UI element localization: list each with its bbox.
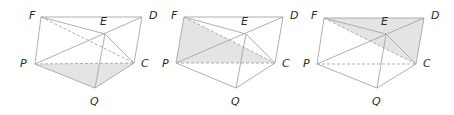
vertex-label-d: D bbox=[149, 9, 157, 22]
vertex-label-q: Q bbox=[231, 95, 240, 108]
polyhedron-figure-3: FDEPCQ bbox=[303, 9, 439, 108]
edge-fp bbox=[35, 17, 41, 64]
edge-pd bbox=[35, 17, 142, 64]
vertex-label-c: C bbox=[423, 57, 431, 70]
edge-ec bbox=[105, 34, 134, 63]
vertex-label-c: C bbox=[282, 57, 290, 70]
vertex-label-e: E bbox=[100, 15, 107, 28]
edge-fp bbox=[317, 18, 324, 64]
edge-fe bbox=[41, 17, 105, 34]
edge-pq bbox=[176, 63, 236, 88]
solid-geometry-diagram: FDEPCQ FDEPCQ FDEPCQ bbox=[0, 0, 454, 115]
vertex-label-d: D bbox=[431, 9, 439, 22]
vertex-label-e: E bbox=[381, 15, 388, 28]
vertex-label-q: Q bbox=[372, 95, 381, 108]
vertex-label-c: C bbox=[141, 57, 149, 70]
vertex-label-f: F bbox=[29, 9, 36, 22]
vertex-label-d: D bbox=[290, 9, 298, 22]
vertex-label-q: Q bbox=[90, 95, 99, 108]
vertex-label-f: F bbox=[171, 9, 178, 22]
vertex-label-p: P bbox=[20, 57, 27, 70]
vertex-label-p: P bbox=[162, 57, 169, 70]
edge-fc-hidden bbox=[41, 17, 134, 63]
polyhedron-figure-2: FDEPCQ bbox=[162, 9, 298, 108]
vertex-label-p: P bbox=[303, 57, 310, 70]
polyhedron-figure-1: FDEPCQ bbox=[20, 9, 157, 108]
edge-qc bbox=[377, 64, 416, 88]
shaded-face-fpc bbox=[176, 17, 275, 63]
edge-qc bbox=[236, 63, 275, 88]
vertex-label-e: E bbox=[241, 15, 248, 28]
edge-pq bbox=[317, 64, 377, 88]
vertex-label-f: F bbox=[311, 9, 318, 22]
polyhedron-figures: FDEPCQ FDEPCQ FDEPCQ bbox=[0, 0, 454, 115]
